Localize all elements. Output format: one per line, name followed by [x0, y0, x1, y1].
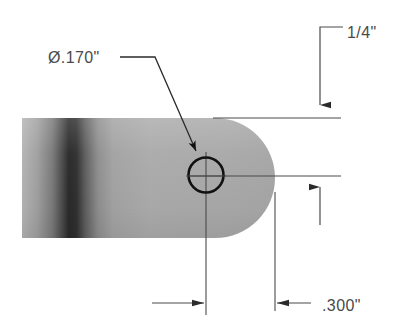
- part-shading-overlay: [22, 118, 275, 238]
- bottom-dimension-group: .300": [152, 297, 361, 314]
- side-edge-dimension-label: .300": [322, 297, 361, 314]
- top-edge-dimension-label: 1/4": [347, 24, 377, 41]
- top-edge-dimension-group: 1/4": [320, 24, 377, 105]
- drawing-svg: Ø.170" 1/4" .300": [0, 0, 397, 334]
- engineering-drawing-canvas: Ø.170" 1/4" .300": [0, 0, 397, 334]
- part-body-group: [22, 118, 275, 238]
- diameter-dimension-label: Ø.170": [48, 49, 100, 66]
- quarter-inch-leader-line: [320, 27, 343, 105]
